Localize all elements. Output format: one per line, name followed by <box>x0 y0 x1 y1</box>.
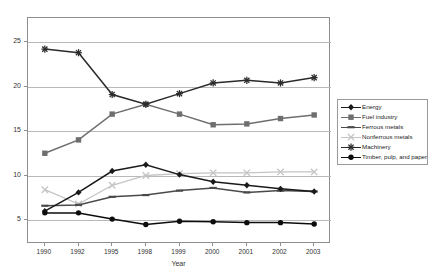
data-point <box>109 196 116 198</box>
data-point <box>348 134 354 140</box>
x-tick <box>313 243 314 246</box>
series-layer <box>28 18 331 244</box>
legend: EnergyFuel industryFerrous metalsNonferr… <box>337 99 428 165</box>
data-point <box>277 79 284 86</box>
data-point <box>41 205 48 207</box>
data-point <box>244 182 250 188</box>
legend-symbol-icon <box>340 152 362 162</box>
legend-item[interactable]: Energy <box>340 102 425 112</box>
x-tick-label: 1995 <box>96 248 126 255</box>
data-point <box>143 162 149 168</box>
data-point <box>348 155 353 160</box>
data-point <box>109 216 114 221</box>
plot-area <box>27 17 330 243</box>
data-point <box>210 187 217 189</box>
legend-label: Machinery <box>362 142 391 152</box>
data-point <box>109 111 114 116</box>
legend-label: Timber, pulp, and paper <box>362 152 427 162</box>
data-point <box>177 219 182 224</box>
series-energy <box>42 162 317 215</box>
data-point <box>177 111 182 116</box>
data-point <box>210 219 215 224</box>
data-point <box>142 194 149 196</box>
data-point <box>75 49 82 56</box>
x-tick <box>280 243 281 246</box>
x-tick-label: 1998 <box>130 248 160 255</box>
legend-label: Nonferrous metals <box>362 132 413 142</box>
y-tick <box>24 130 27 131</box>
legend-symbol-icon <box>340 102 362 112</box>
x-tick-label: 1999 <box>164 248 194 255</box>
x-tick-label: 2002 <box>265 248 295 255</box>
data-point <box>348 115 353 120</box>
data-point <box>109 168 115 174</box>
y-tick <box>24 175 27 176</box>
x-tick-label: 1990 <box>29 248 59 255</box>
x-tick-label: 2000 <box>197 248 227 255</box>
chart-screenshot: Year EnergyFuel industryFerrous metalsNo… <box>0 0 430 275</box>
data-point <box>311 221 316 226</box>
data-point <box>347 126 354 128</box>
y-tick-label: 10 <box>3 171 21 178</box>
y-tick-label: 20 <box>3 82 21 89</box>
data-point <box>311 112 316 117</box>
y-tick <box>24 41 27 42</box>
x-tick <box>78 243 79 246</box>
legend-symbol-icon <box>340 132 362 142</box>
data-point <box>311 74 318 81</box>
data-point <box>176 190 183 192</box>
x-tick-label: 2001 <box>231 248 261 255</box>
data-point <box>75 204 82 206</box>
series-timber-pulp-and-paper <box>42 210 317 227</box>
data-point <box>176 90 183 97</box>
data-point <box>109 91 116 98</box>
y-tick-label: 25 <box>3 37 21 44</box>
y-tick-label: 15 <box>3 126 21 133</box>
data-point <box>278 116 283 121</box>
data-point <box>243 77 250 84</box>
series-machinery <box>41 46 317 108</box>
legend-label: Ferrous metals <box>362 122 403 132</box>
legend-symbol-icon <box>340 122 362 132</box>
x-tick-label: 2003 <box>298 248 328 255</box>
legend-item[interactable]: Machinery <box>340 142 425 152</box>
x-tick-label: 1992 <box>63 248 93 255</box>
legend-label: Fuel industry <box>362 112 397 122</box>
data-point <box>348 104 354 110</box>
x-tick <box>246 243 247 246</box>
data-point <box>76 189 82 195</box>
data-point <box>210 79 217 86</box>
data-point <box>210 122 215 127</box>
data-point <box>244 121 249 126</box>
y-tick <box>24 219 27 220</box>
data-point <box>143 222 148 227</box>
data-point <box>210 179 216 185</box>
data-point <box>76 137 81 142</box>
legend-item[interactable]: Nonferrous metals <box>340 132 425 142</box>
data-point <box>42 187 48 193</box>
legend-symbol-icon <box>340 112 362 122</box>
y-tick <box>24 86 27 87</box>
legend-item[interactable]: Ferrous metals <box>340 122 425 132</box>
x-tick <box>212 243 213 246</box>
data-point <box>76 210 81 215</box>
x-tick <box>44 243 45 246</box>
x-axis-title: Year <box>0 260 357 267</box>
data-point <box>42 210 47 215</box>
legend-label: Energy <box>362 102 382 112</box>
data-point <box>41 46 48 53</box>
data-point <box>278 220 283 225</box>
data-point <box>42 151 47 156</box>
legend-symbol-icon <box>340 142 362 152</box>
data-point <box>311 188 317 194</box>
data-point <box>244 220 249 225</box>
legend-item[interactable]: Fuel industry <box>340 112 425 122</box>
series-fuel-industry <box>42 102 317 156</box>
legend-item[interactable]: Timber, pulp, and paper <box>340 152 425 162</box>
data-point <box>348 144 355 151</box>
x-tick <box>145 243 146 246</box>
x-tick <box>179 243 180 246</box>
data-point <box>142 101 149 108</box>
data-point <box>243 191 250 193</box>
x-tick <box>111 243 112 246</box>
